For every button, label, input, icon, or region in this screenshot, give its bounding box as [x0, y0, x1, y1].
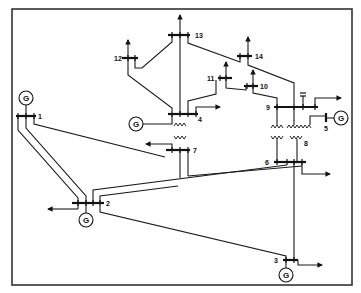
line-2-7	[100, 186, 178, 203]
bus-9: 9	[266, 104, 318, 111]
bus-5-label: 5	[324, 125, 328, 132]
bus-4-label: 4	[198, 116, 202, 123]
transformer-9-6	[271, 107, 283, 162]
generator-bus-5: G	[326, 111, 348, 125]
bus-8-label: 8	[304, 140, 308, 147]
load-bus-4	[196, 107, 220, 114]
bus-13: 13	[168, 32, 203, 39]
line-1-2b	[26, 116, 86, 202]
bus-9-label: 9	[266, 104, 270, 111]
bus-12: 12	[114, 55, 138, 62]
bus-2-label: 2	[106, 200, 110, 207]
bus-12-label: 12	[114, 55, 122, 62]
transformer-9-8: 8	[287, 107, 326, 162]
generator-icon: G	[133, 120, 139, 129]
generator-bus-2: G	[79, 203, 93, 227]
bus-1: 1	[16, 113, 42, 120]
bus-10-label: 10	[260, 83, 268, 90]
transformer-4-7	[174, 123, 186, 139]
bus-14: 14	[237, 53, 263, 60]
generator-icon: G	[283, 271, 289, 280]
line-12-13	[135, 35, 172, 68]
bus-11: 11	[207, 75, 232, 82]
generator-icon: G	[338, 114, 344, 123]
generator-bus-1: G	[19, 91, 33, 116]
power-system-one-line-diagram: 1 G 2 G 3 G	[0, 0, 361, 293]
bus-7: 7	[166, 147, 197, 154]
bus-3-label: 3	[274, 257, 278, 264]
bus-6-label: 6	[265, 159, 269, 166]
load-bus-6	[302, 162, 330, 174]
line-2-6	[93, 165, 287, 203]
bus-1-label: 1	[38, 113, 42, 120]
line-13-14	[188, 35, 240, 62]
bus-10: 10	[244, 83, 268, 90]
bus-7-label: 7	[193, 147, 197, 154]
line-7-6	[188, 166, 302, 176]
generator-icon: G	[23, 94, 29, 103]
diagram-frame	[12, 9, 352, 285]
line-2-3	[100, 206, 286, 260]
bus-4: 4	[168, 111, 202, 123]
generator-bus-4: G	[129, 114, 172, 131]
line-4-11	[188, 80, 216, 111]
line-1-7	[34, 116, 165, 157]
bus-11-label: 11	[207, 75, 215, 82]
bus-13-label: 13	[195, 32, 203, 39]
load-bus-9	[315, 98, 341, 107]
load-bus-3	[298, 260, 322, 265]
bus-14-label: 14	[255, 53, 263, 60]
line-11-10	[226, 78, 246, 90]
generator-icon: G	[83, 216, 89, 225]
generator-bus-3: G	[279, 260, 293, 282]
